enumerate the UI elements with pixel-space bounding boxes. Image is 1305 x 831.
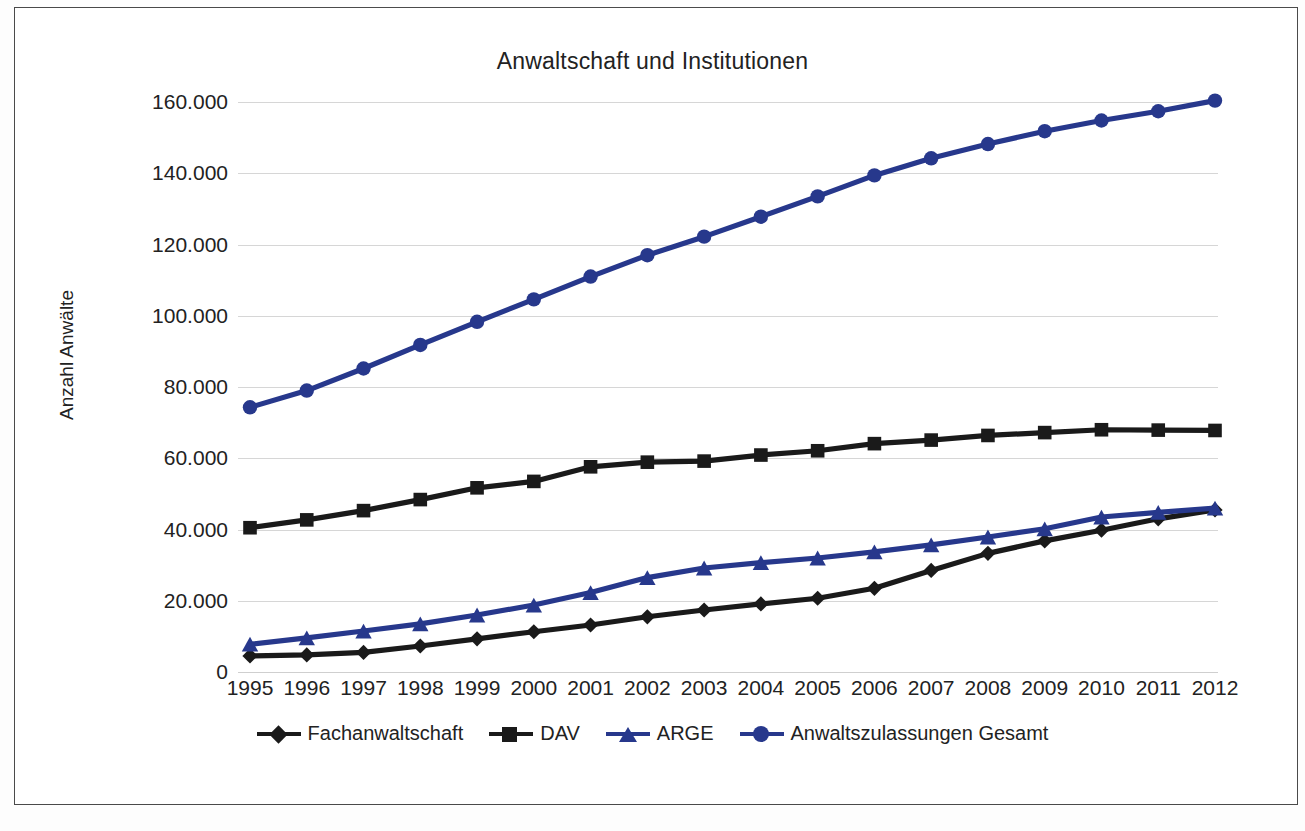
data-point-marker — [357, 504, 371, 518]
data-point-marker — [527, 292, 541, 306]
data-point-marker — [810, 591, 825, 606]
data-point-marker — [299, 647, 314, 662]
legend-swatch-circle-icon — [740, 725, 784, 743]
data-point-marker — [413, 638, 428, 653]
data-point-marker — [640, 248, 654, 262]
data-point-marker — [697, 602, 712, 617]
data-point-marker — [1094, 523, 1109, 538]
data-point-marker — [243, 400, 257, 414]
data-point-marker — [640, 609, 655, 624]
series-arge — [242, 501, 1223, 652]
data-point-marker — [300, 513, 314, 527]
data-point-marker — [641, 455, 655, 469]
series-line — [250, 508, 1215, 644]
x-tick-label: 2010 — [1078, 676, 1125, 700]
data-point-marker — [356, 361, 370, 375]
x-tick-label: 1997 — [340, 676, 387, 700]
legend-label: Fachanwaltschaft — [308, 722, 464, 745]
data-point-marker — [1208, 93, 1222, 107]
data-point-marker — [924, 151, 938, 165]
data-point-marker — [1038, 124, 1052, 138]
data-point-marker — [1151, 104, 1165, 118]
data-point-marker — [583, 269, 597, 283]
x-tick-label: 2008 — [965, 676, 1012, 700]
data-point-marker — [413, 338, 427, 352]
x-tick-label: 1996 — [283, 676, 330, 700]
data-point-marker — [924, 563, 939, 578]
data-point-marker — [811, 444, 825, 458]
x-tick-label: 2003 — [681, 676, 728, 700]
x-tick-label: 2005 — [794, 676, 841, 700]
data-point-marker — [583, 617, 598, 632]
data-point-marker — [697, 229, 711, 243]
x-tick-label: 2002 — [624, 676, 671, 700]
legend-label: Anwaltszulassungen Gesamt — [791, 722, 1049, 745]
data-point-marker — [469, 631, 484, 646]
data-point-marker — [867, 168, 881, 182]
data-point-marker — [356, 645, 371, 660]
series-fachanwaltschaft — [242, 502, 1222, 663]
series-anwaltszulassungen-gesamt — [243, 93, 1222, 414]
legend-item-arge[interactable]: ARGE — [606, 722, 714, 745]
data-point-marker — [981, 429, 995, 443]
data-point-marker — [868, 437, 882, 451]
series-line — [250, 101, 1215, 408]
x-tick-label: 2006 — [851, 676, 898, 700]
data-point-marker — [754, 448, 768, 462]
x-tick-label: 2012 — [1192, 676, 1239, 700]
data-point-marker — [1208, 424, 1222, 438]
data-point-marker — [526, 624, 541, 639]
data-point-marker — [300, 383, 314, 397]
data-point-marker — [697, 454, 711, 468]
x-tick-label: 2011 — [1136, 676, 1181, 700]
legend-item-anwaltszulassungen-gesamt[interactable]: Anwaltszulassungen Gesamt — [740, 722, 1049, 745]
data-point-marker — [810, 189, 824, 203]
data-point-marker — [470, 315, 484, 329]
legend-swatch-square-icon — [489, 725, 533, 743]
data-point-marker — [1094, 113, 1108, 127]
plot-area: 160.000140.000120.000100.00080.00060.000… — [0, 0, 1305, 831]
x-tick-label: 2007 — [908, 676, 955, 700]
legend-swatch-triangle-icon — [606, 725, 650, 743]
data-point-marker — [1151, 423, 1165, 437]
data-point-marker — [754, 210, 768, 224]
x-tick-label: 1995 — [227, 676, 274, 700]
x-tick-label: 2004 — [738, 676, 785, 700]
legend-swatch-diamond-icon — [257, 725, 301, 743]
legend-label: DAV — [540, 722, 580, 745]
legend-item-fachanwaltschaft[interactable]: Fachanwaltschaft — [257, 722, 464, 745]
legend-item-dav[interactable]: DAV — [489, 722, 580, 745]
data-point-marker — [527, 475, 541, 489]
chart-legend: FachanwaltschaftDAVARGEAnwaltszulassunge… — [0, 722, 1305, 745]
data-point-marker — [980, 546, 995, 561]
series-dav — [243, 423, 1222, 535]
x-tick-label: 2000 — [510, 676, 557, 700]
data-point-marker — [924, 433, 938, 447]
data-point-marker — [981, 137, 995, 151]
x-tick-label: 2009 — [1021, 676, 1068, 700]
data-point-marker — [413, 493, 427, 507]
data-point-marker — [753, 596, 768, 611]
data-point-marker — [1095, 423, 1109, 437]
x-tick-label: 1998 — [397, 676, 444, 700]
data-point-marker — [243, 521, 257, 535]
x-axis-tick-labels: 1995199619971998199920002001200220032004… — [0, 676, 1305, 704]
series-line — [250, 510, 1215, 656]
data-point-marker — [584, 460, 598, 474]
series-line — [250, 430, 1215, 528]
data-point-marker — [867, 581, 882, 596]
series-layer — [0, 0, 1305, 831]
data-point-marker — [470, 481, 484, 495]
x-tick-label: 2001 — [567, 676, 614, 700]
x-tick-label: 1999 — [454, 676, 501, 700]
legend-label: ARGE — [657, 722, 714, 745]
data-point-marker — [1038, 426, 1052, 440]
chart-page: Anwaltschaft und Institutionen Anzahl An… — [0, 0, 1305, 831]
